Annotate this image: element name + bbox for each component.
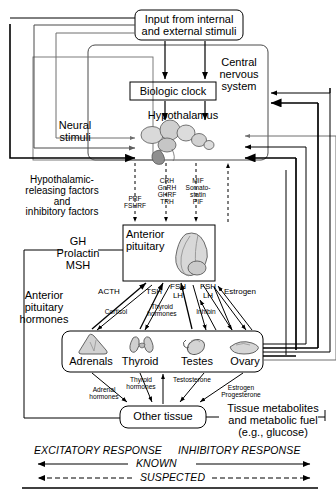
anterior-pituitary-hormones-label: Anterior pituitary hormones xyxy=(6,290,82,326)
gland-label-testes: Testes xyxy=(173,356,221,368)
hormone-tsh: TSH xyxy=(141,288,167,297)
legend-inhibitory: INHIBITORY RESPONSE xyxy=(178,444,301,456)
releasing-factor-mif-group: MIF Somato- statin PIF xyxy=(180,177,216,205)
product-thyroid-hormones: Thyroid hormones xyxy=(122,376,160,390)
releasing-factor-prf-fshrf: PRF FSHRF xyxy=(118,195,152,209)
anterior-pituitary-label: Anterior pituitary xyxy=(126,228,188,252)
hypothalamus-label: Hypothalamus xyxy=(128,109,238,121)
gland-label-ovary: Ovary xyxy=(223,356,267,368)
hormone-estrogen-feedback: Estrogen xyxy=(218,288,262,297)
product-adrenal-hormones: Adrenal hormones xyxy=(85,386,123,400)
hormone-fsh-lh-testes: FSH LH xyxy=(166,283,190,300)
tissue-metabolites-label: Tissue metabolites and metabolic fuel (e… xyxy=(213,403,333,439)
legend-suspected: SUSPECTED xyxy=(140,471,205,483)
neural-stimuli-label: Neural stimuli xyxy=(40,120,110,144)
product-estrogen-progesterone: Estrogen Progesterone xyxy=(213,384,269,398)
releasing-factor-crh-group: CRH GnRH GHRF TRH xyxy=(150,177,184,205)
legend-excitatory: EXCITATORY RESPONSE xyxy=(34,444,162,456)
thyroid-illustration xyxy=(130,337,153,352)
other-tissue-label: Other tissue xyxy=(120,410,206,422)
input-box-label: Input from internal and external stimuli xyxy=(135,13,243,37)
gh-prolactin-msh-label: GH Prolactin MSH xyxy=(46,236,110,272)
product-testosterone: Testosterone xyxy=(168,376,216,383)
legend-known: KNOWN xyxy=(136,457,177,469)
gland-label-thyroid: Thyroid xyxy=(114,356,166,368)
hormone-cortisol: Cortisol xyxy=(101,308,131,315)
hormone-acth: ACTH xyxy=(94,288,124,297)
cns-box-label: Central nervous system xyxy=(210,57,268,93)
hormone-thyroid-upper: Thyroid hormones xyxy=(143,303,181,317)
biologic-clock-label: Biologic clock xyxy=(130,85,216,97)
hypothalamic-factors-label: Hypothalamic- releasing factors and inhi… xyxy=(2,175,122,218)
adrenals-illustration xyxy=(79,334,107,354)
diagram-canvas: Input from internal and external stimuli… xyxy=(0,0,336,492)
hormone-fsh-lh-ovary: FSH LH xyxy=(196,283,220,300)
gland-label-adrenals: Adrenals xyxy=(62,356,120,368)
ovary-illustration xyxy=(230,342,258,354)
hypothalamus-illustration xyxy=(141,120,214,164)
hormone-inhibin: Inhibin xyxy=(192,308,220,315)
